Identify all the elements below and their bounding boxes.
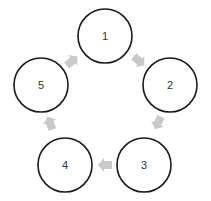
arrow-5-to-1-icon (62, 51, 82, 71)
node-label: 1 (102, 30, 108, 42)
node-1: 1 (78, 9, 132, 63)
arrow-4-to-5-icon (41, 114, 59, 132)
arrow-2-to-3-icon (149, 114, 168, 133)
node-label: 3 (141, 159, 147, 171)
node-label: 2 (167, 79, 173, 91)
node-label: 4 (62, 159, 68, 171)
node-2: 2 (143, 58, 197, 112)
arrow-1-to-2-icon (129, 51, 149, 71)
node-4: 4 (38, 138, 92, 192)
node-3: 3 (117, 138, 171, 192)
node-label: 5 (38, 79, 44, 91)
cycle-diagram: 12345 (0, 0, 211, 201)
node-5: 5 (14, 58, 68, 112)
arrow-3-to-4-icon (98, 158, 112, 172)
diagram-canvas: 12345 (0, 0, 211, 201)
